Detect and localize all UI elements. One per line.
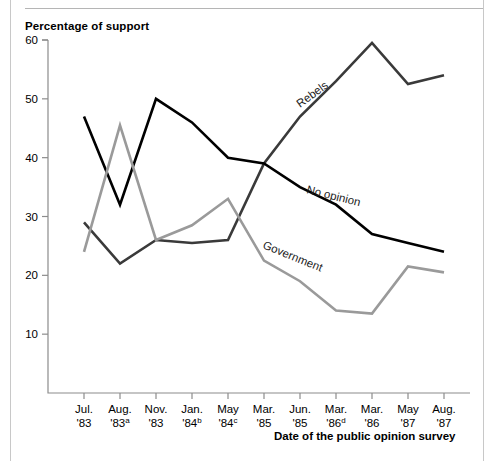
y-tick-label: 60 [25,34,38,46]
series-annotations: RebelsNo opinionGovernment [261,79,362,274]
x-tick-label-month: Jun. [289,403,311,415]
x-tick-label-year: '87 [437,417,452,429]
x-tick-label-year: '86d [326,416,345,429]
x-tick-label-month: Mar. [361,403,383,415]
x-tick-label-month: Mar. [325,403,347,415]
x-tick-label-year: '84c [219,416,238,429]
y-tick-label: 10 [25,328,38,340]
x-tick-label-year: '85 [257,417,272,429]
y-tick-label: 50 [25,93,38,105]
x-axis-title: Date of the public opinion survey [274,430,455,442]
x-tick-label-year: '84b [182,416,202,429]
x-tick-label-month: May [397,403,419,415]
x-tick-label-year: '86 [365,417,380,429]
y-tick-labels: 102030405060 [25,34,48,340]
y-tick-label: 20 [25,269,38,281]
x-tick-label-month: Aug. [108,403,132,415]
x-tick-labels: Jul.'83Aug.'83aNov.'83Jan.'84bMay'84cMar… [75,393,456,429]
x-tick-label-month: May [217,403,239,415]
y-tick-label: 30 [25,211,38,223]
x-tick-label-year: '87 [401,417,416,429]
x-tick-label-month: Jan. [181,403,203,415]
x-tick-label-month: Mar. [253,403,275,415]
x-tick-label-month: Nov. [145,403,168,415]
series-label-government: Government [261,239,325,274]
x-tick-label-year: '83 [149,417,164,429]
line-chart: 102030405060 Jul.'83Aug.'83aNov.'83Jan.'… [0,0,491,461]
chart-page: Percentage of support 102030405060 Jul.'… [0,0,491,461]
x-tick-label-year: '83 [77,417,92,429]
x-tick-label-year: '83a [110,416,130,429]
x-tick-label-month: Aug. [432,403,456,415]
y-tick-label: 40 [25,152,38,164]
x-tick-label-month: Jul. [75,403,93,415]
x-tick-label-year: '85 [293,417,308,429]
chart-axes [48,40,470,393]
chart-series-lines [84,43,444,314]
series-line-no-opinion [84,99,444,252]
